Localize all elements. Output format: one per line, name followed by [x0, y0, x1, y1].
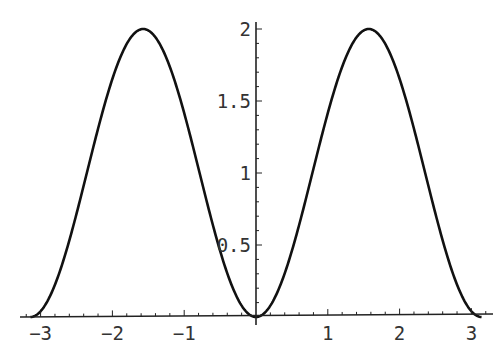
y-tick-label: 1.5 [217, 90, 251, 112]
tick-labels: −3−2−11230.511.52 [29, 18, 477, 344]
plot-area: −3−2−11230.511.52 [0, 0, 495, 348]
y-tick-label: 0.5 [217, 234, 251, 256]
x-tick-label: 2 [394, 322, 405, 344]
x-tick-label: −1 [173, 322, 196, 344]
x-tick-label: 3 [466, 322, 477, 344]
x-tick-label: −3 [29, 322, 52, 344]
y-tick-label: 1 [240, 162, 251, 184]
y-tick-label: 2 [240, 18, 251, 40]
x-tick-label: 1 [322, 322, 333, 344]
x-tick-label: −2 [101, 322, 124, 344]
axes [20, 22, 493, 325]
